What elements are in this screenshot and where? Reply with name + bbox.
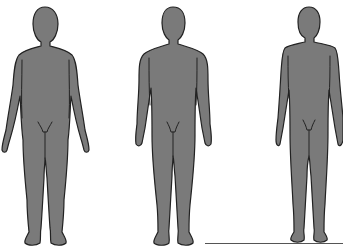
silhouette-broad <box>2 7 89 245</box>
silhouette-athletic <box>136 7 212 245</box>
body-types-illustration <box>0 0 343 247</box>
silhouette-slender <box>276 7 343 242</box>
